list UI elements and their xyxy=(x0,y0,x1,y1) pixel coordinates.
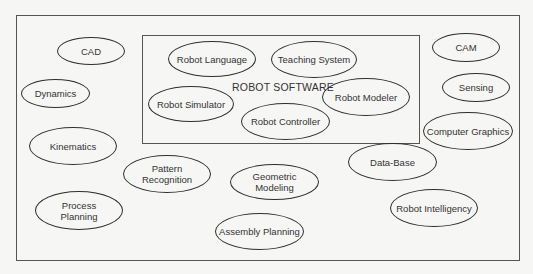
node-cad: CAD xyxy=(57,37,125,65)
node-robot-language: Robot Language xyxy=(168,41,256,77)
node-cam: CAM xyxy=(432,33,500,62)
robot-software-label: ROBOT SOFTWARE xyxy=(232,81,334,93)
node-teaching-system: Teaching System xyxy=(271,41,357,78)
node-data-base: Data-Base xyxy=(348,143,437,181)
node-robot-intelligency: Robot Intelligency xyxy=(390,189,478,227)
node-robot-controller: Robot Controller xyxy=(241,103,330,140)
node-sensing: Sensing xyxy=(442,73,510,102)
node-kinematics: Kinematics xyxy=(29,127,117,165)
node-robot-modeler: Robot Modeler xyxy=(322,78,410,116)
node-geometric-modeling: Geometric Modeling xyxy=(230,164,319,200)
node-robot-simulator: Robot Simulator xyxy=(148,86,234,122)
node-pattern-recognition: Pattern Recognition xyxy=(123,155,211,193)
node-process-planning: Process Planning xyxy=(35,191,123,230)
node-dynamics: Dynamics xyxy=(21,79,90,108)
node-computer-graphics: Computer Graphics xyxy=(423,112,513,150)
node-assembly-planning: Assembly Planning xyxy=(215,213,304,250)
